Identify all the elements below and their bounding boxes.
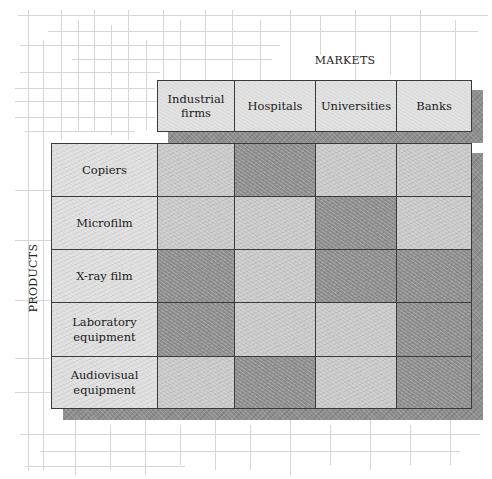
cell-copiers-industrial (158, 144, 235, 197)
product-audiovisual-equipment: Audiovisual equipment (52, 357, 158, 408)
markets-axis-label: MARKETS (300, 54, 390, 67)
cell-av-universities (316, 357, 397, 408)
product-microfilm: Microfilm (52, 197, 158, 250)
cell-av-industrial (158, 357, 235, 408)
cell-microfilm-hospitals (235, 197, 316, 250)
product-copiers: Copiers (52, 144, 158, 197)
product-laboratory-equipment: Laboratory equipment (52, 303, 158, 357)
cell-av-hospitals (235, 357, 316, 408)
cell-lab-hospitals (235, 303, 316, 357)
market-universities: Universities (316, 81, 397, 131)
markets-header: Industrial firms Hospitals Universities … (157, 80, 472, 132)
cell-xray-universities (316, 250, 397, 303)
cell-xray-banks (397, 250, 471, 303)
market-industrial-firms: Industrial firms (158, 81, 235, 131)
cell-av-banks (397, 357, 471, 408)
cell-xray-hospitals (235, 250, 316, 303)
cell-copiers-universities (316, 144, 397, 197)
cell-copiers-hospitals (235, 144, 316, 197)
cell-microfilm-industrial (158, 197, 235, 250)
cell-lab-industrial (158, 303, 235, 357)
market-hospitals: Hospitals (235, 81, 316, 131)
cell-xray-industrial (158, 250, 235, 303)
cell-copiers-banks (397, 144, 471, 197)
cell-microfilm-universities (316, 197, 397, 250)
product-xray-film: X-ray film (52, 250, 158, 303)
cell-lab-banks (397, 303, 471, 357)
cell-lab-universities (316, 303, 397, 357)
products-axis-label: PRODUCTS (27, 238, 40, 318)
cell-microfilm-banks (397, 197, 471, 250)
market-banks: Banks (397, 81, 471, 131)
product-market-grid: Copiers Microfilm X-ray film Laboratory … (51, 143, 472, 409)
